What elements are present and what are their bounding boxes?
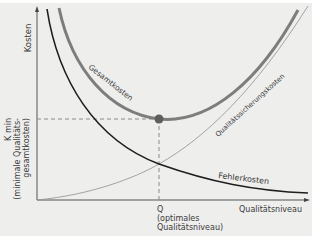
fehlerkosten-curve (47, 9, 308, 193)
kmin-label-line2: (minimale Qualitäts- (13, 118, 22, 200)
qsk-curve (37, 6, 308, 200)
q-label-line3: Qualitätsniveau) (157, 223, 223, 232)
x-axis-arrow-icon (304, 198, 310, 202)
y-axis-label: Kosten (23, 24, 33, 53)
x-axis-label: Qualitätsniveau (239, 205, 302, 214)
cost-chart: Kosten K min (minimale Qualitäts- gesamt… (0, 0, 312, 241)
kmin-label-line1: K min (4, 118, 13, 141)
q-label-line2: (optimales (157, 214, 199, 223)
minimum-point (155, 115, 164, 124)
kmin-label-line3: gesamtkosten) (22, 118, 31, 178)
fehlerkosten-label: Fehlerkosten (218, 171, 270, 186)
qsk-label: Qualitätssicherungskosten (214, 72, 286, 138)
y-axis-arrow-icon (35, 6, 39, 12)
q-label-line1: Q (157, 205, 163, 214)
